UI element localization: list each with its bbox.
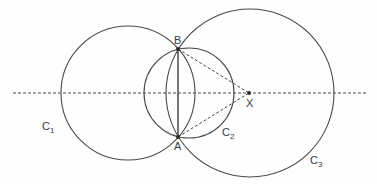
circle-label-c3: C3 <box>310 154 323 169</box>
circle-label-c2: C2 <box>222 126 235 141</box>
point-b <box>176 47 180 51</box>
diagram-svg: BAXC1C2C3 <box>0 0 377 184</box>
geometry-diagram: BAXC1C2C3 <box>0 0 377 184</box>
point-label-x: X <box>246 97 254 109</box>
circle-label-c1: C1 <box>42 120 55 135</box>
point-a <box>176 135 180 139</box>
point-x <box>247 91 251 95</box>
point-label-a: A <box>174 140 182 152</box>
point-label-b: B <box>174 34 181 46</box>
